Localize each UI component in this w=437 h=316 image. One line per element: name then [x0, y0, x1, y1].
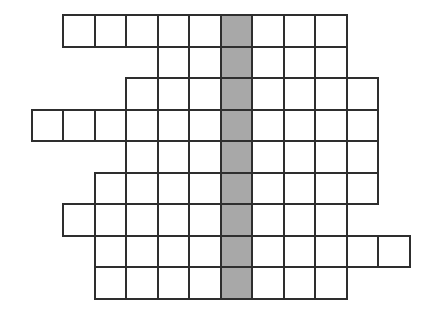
crossword-cell[interactable] [283, 203, 317, 237]
crossword-cell[interactable] [314, 77, 348, 111]
crossword-cell[interactable] [314, 235, 348, 269]
crossword-cell[interactable] [157, 109, 191, 143]
crossword-cell[interactable] [94, 14, 128, 48]
crossword-cell[interactable] [314, 46, 348, 80]
crossword-cell[interactable] [94, 172, 128, 206]
crossword-cell[interactable] [314, 14, 348, 48]
crossword-puzzle [0, 0, 437, 316]
crossword-cell-highlighted[interactable] [220, 46, 254, 80]
crossword-cell[interactable] [157, 266, 191, 300]
crossword-cell[interactable] [283, 172, 317, 206]
crossword-cell[interactable] [157, 140, 191, 174]
crossword-cell[interactable] [157, 77, 191, 111]
crossword-cell[interactable] [188, 109, 222, 143]
crossword-cell[interactable] [251, 46, 285, 80]
crossword-cell[interactable] [188, 77, 222, 111]
crossword-cell-highlighted[interactable] [220, 203, 254, 237]
crossword-cell[interactable] [283, 266, 317, 300]
crossword-cell[interactable] [188, 203, 222, 237]
crossword-cell[interactable] [377, 235, 411, 269]
crossword-cell[interactable] [346, 172, 380, 206]
crossword-cell[interactable] [188, 266, 222, 300]
crossword-cell[interactable] [62, 203, 96, 237]
crossword-cell[interactable] [125, 14, 159, 48]
crossword-cell[interactable] [314, 266, 348, 300]
crossword-cell[interactable] [283, 46, 317, 80]
crossword-cell[interactable] [314, 172, 348, 206]
crossword-cell-highlighted[interactable] [220, 77, 254, 111]
crossword-cell[interactable] [94, 203, 128, 237]
crossword-cell[interactable] [125, 235, 159, 269]
crossword-cell[interactable] [251, 77, 285, 111]
crossword-cell[interactable] [188, 172, 222, 206]
crossword-cell[interactable] [125, 109, 159, 143]
crossword-cell[interactable] [283, 77, 317, 111]
crossword-cell-highlighted[interactable] [220, 109, 254, 143]
crossword-cell[interactable] [157, 14, 191, 48]
crossword-cell-highlighted[interactable] [220, 266, 254, 300]
crossword-cell[interactable] [125, 266, 159, 300]
crossword-cell[interactable] [125, 172, 159, 206]
crossword-cell[interactable] [251, 203, 285, 237]
crossword-cell[interactable] [188, 46, 222, 80]
crossword-cell[interactable] [251, 14, 285, 48]
crossword-cell[interactable] [157, 172, 191, 206]
crossword-cell[interactable] [188, 235, 222, 269]
crossword-cell-highlighted[interactable] [220, 140, 254, 174]
crossword-cell[interactable] [125, 77, 159, 111]
crossword-grid [0, 0, 437, 316]
crossword-cell[interactable] [283, 140, 317, 174]
crossword-cell[interactable] [31, 109, 65, 143]
crossword-cell[interactable] [157, 235, 191, 269]
crossword-cell[interactable] [62, 109, 96, 143]
crossword-cell[interactable] [188, 14, 222, 48]
crossword-cell[interactable] [314, 140, 348, 174]
crossword-cell[interactable] [94, 109, 128, 143]
crossword-cell-highlighted[interactable] [220, 172, 254, 206]
crossword-cell[interactable] [251, 109, 285, 143]
crossword-cell[interactable] [94, 235, 128, 269]
crossword-cell[interactable] [157, 203, 191, 237]
crossword-cell-highlighted[interactable] [220, 14, 254, 48]
crossword-cell[interactable] [283, 14, 317, 48]
crossword-cell[interactable] [94, 266, 128, 300]
crossword-cell[interactable] [62, 14, 96, 48]
crossword-cell[interactable] [346, 77, 380, 111]
crossword-cell[interactable] [283, 109, 317, 143]
crossword-cell[interactable] [314, 109, 348, 143]
crossword-cell[interactable] [251, 140, 285, 174]
crossword-cell-highlighted[interactable] [220, 235, 254, 269]
crossword-cell[interactable] [314, 203, 348, 237]
crossword-cell[interactable] [157, 46, 191, 80]
crossword-cell[interactable] [251, 235, 285, 269]
crossword-cell[interactable] [346, 140, 380, 174]
crossword-cell[interactable] [125, 203, 159, 237]
crossword-cell[interactable] [188, 140, 222, 174]
crossword-cell[interactable] [251, 172, 285, 206]
crossword-cell[interactable] [125, 140, 159, 174]
crossword-cell[interactable] [283, 235, 317, 269]
crossword-cell[interactable] [346, 109, 380, 143]
crossword-cell[interactable] [346, 235, 380, 269]
crossword-cell[interactable] [251, 266, 285, 300]
